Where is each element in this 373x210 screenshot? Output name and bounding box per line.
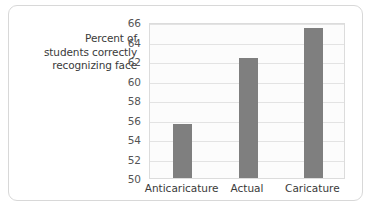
x-axis-category-label: Caricature <box>285 182 340 194</box>
bar <box>239 58 258 178</box>
y-axis-tick-label: 50 <box>128 173 141 185</box>
y-axis-tick-label: 66 <box>128 17 141 29</box>
bar <box>304 28 323 178</box>
y-axis-tick-label: 58 <box>128 95 141 107</box>
y-axis-tick-label: 52 <box>128 154 141 166</box>
plot-area <box>149 23 345 179</box>
y-axis-tick-label: 62 <box>128 56 141 68</box>
x-axis-category-labels: AnticaricatureActualCaricature <box>149 182 345 198</box>
y-axis-tick-label: 64 <box>128 37 141 49</box>
x-axis-category-label: Actual <box>231 182 264 194</box>
bar <box>173 124 192 178</box>
y-axis-tick-label: 54 <box>128 134 141 146</box>
y-axis-tick-label: 60 <box>128 76 141 88</box>
bar-series <box>150 24 344 178</box>
y-axis-tick-labels: 505254565860626466 <box>113 23 145 179</box>
figure-frame: Percent of students correctly recognizin… <box>8 5 363 201</box>
y-axis-tick-label: 56 <box>128 115 141 127</box>
x-axis-category-label: Anticaricature <box>145 182 219 194</box>
